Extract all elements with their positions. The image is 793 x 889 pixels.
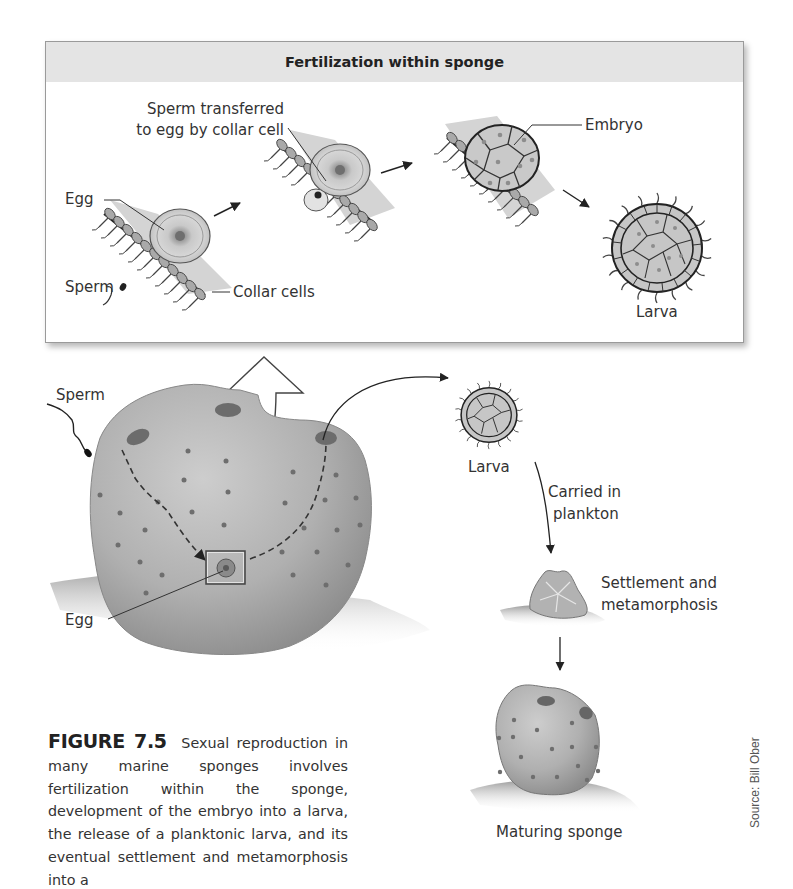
label-sperm-inset: Sperm xyxy=(65,278,114,296)
label-carried-1: Carried in xyxy=(548,483,621,501)
source-credit: Source: Bill Ober xyxy=(748,737,762,828)
main-sponge xyxy=(47,384,430,654)
label-sperm-main: Sperm xyxy=(56,386,105,404)
label-larva-inset: Larva xyxy=(636,303,678,321)
maturing-sponge xyxy=(470,685,640,813)
figure-caption: FIGURE 7.5 Sexual reproduction in many m… xyxy=(48,730,348,889)
label-larva-main: Larva xyxy=(468,458,510,476)
label-settlement-2: metamorphosis xyxy=(601,596,718,614)
label-settlement-1: Settlement and xyxy=(601,574,717,592)
plankton-arrow xyxy=(535,462,551,553)
settlement-sponge xyxy=(500,571,605,627)
label-egg-main: Egg xyxy=(65,611,94,629)
inset-leaders xyxy=(0,0,793,400)
caption-text: Sexual reproduction in many marine spong… xyxy=(48,735,348,888)
label-collar-cells: Collar cells xyxy=(233,283,315,301)
label-maturing-sponge: Maturing sponge xyxy=(496,823,622,841)
label-carried-2: plankton xyxy=(553,505,619,523)
label-embryo: Embryo xyxy=(585,116,643,134)
figure-number: FIGURE 7.5 xyxy=(48,730,167,752)
